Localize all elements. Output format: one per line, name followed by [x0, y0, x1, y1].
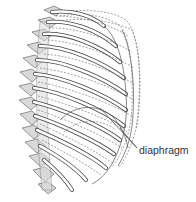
rib-cage-diagram — [0, 0, 196, 202]
diaphragm-label: diaphragm — [139, 144, 189, 156]
